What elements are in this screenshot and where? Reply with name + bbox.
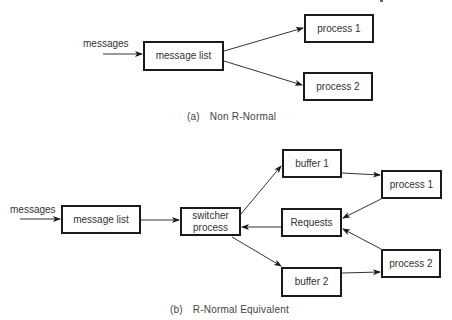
edge-b-process-1-to-requests xyxy=(343,199,381,218)
node-label: process 1 xyxy=(390,179,433,191)
edge-a-message-list-to-process-1 xyxy=(224,28,303,51)
node-buffer-2: buffer 2 xyxy=(281,267,342,297)
caption-text: R-Normal Equivalent xyxy=(193,304,289,315)
node-label: buffer 2 xyxy=(295,276,329,288)
node-label: process 2 xyxy=(389,258,432,270)
caption-text: Non R-Normal xyxy=(210,111,276,122)
messages-input-label: messages xyxy=(10,204,56,215)
node-label: buffer 1 xyxy=(295,158,329,170)
edge-b-switcher-to-buffer-1 xyxy=(241,166,281,214)
node-label: Requests xyxy=(290,217,332,229)
node-label: message list xyxy=(156,50,212,62)
messages-input-label: messages xyxy=(83,38,129,49)
edge-b-buffer-2-to-process-2 xyxy=(342,272,380,273)
node-requests: Requests xyxy=(281,208,342,237)
node-switcher-process: switcher process xyxy=(180,207,241,236)
node-message-list: message list xyxy=(61,205,141,234)
edge-b-process-2-to-requests xyxy=(343,229,381,249)
node-process-1: process 1 xyxy=(381,170,442,199)
node-label: process 2 xyxy=(316,81,359,93)
node-process-2: process 2 xyxy=(381,249,441,278)
caption-tag: (a) xyxy=(187,111,200,122)
node-label-line-2: process xyxy=(193,222,228,234)
edge-b-buffer-1-to-process-1 xyxy=(342,173,380,175)
node-label: process 1 xyxy=(317,23,360,35)
node-process-2: process 2 xyxy=(303,72,373,101)
caption-tag: (b) xyxy=(170,304,183,315)
node-label-line-1: switcher xyxy=(192,210,229,222)
edge-b-switcher-to-buffer-2 xyxy=(232,237,281,266)
edge-a-message-list-to-process-2 xyxy=(224,61,302,85)
node-process-1: process 1 xyxy=(304,14,374,43)
caption-b: (b)R-Normal Equivalent xyxy=(170,304,289,315)
node-label: message list xyxy=(73,214,129,226)
node-message-list: message list xyxy=(143,41,224,71)
caption-a: (a)Non R-Normal xyxy=(187,111,276,122)
node-buffer-1: buffer 1 xyxy=(282,149,342,178)
